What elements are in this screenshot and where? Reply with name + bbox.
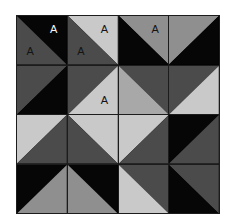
- quilt-cell-r1-c1: A: [68, 66, 118, 115]
- quilt-cell-r0-c0: AA: [17, 16, 67, 65]
- quilt-cell-r1-c3: [169, 66, 219, 115]
- quilt-cell-r2-c2: [119, 115, 169, 164]
- quilt-cell-r1-c0: [17, 66, 67, 115]
- quilt-cell-r2-c1: [68, 115, 118, 164]
- quilt-cell-r0-c3: [169, 16, 219, 65]
- quilt-cell-r2-c0: [17, 115, 67, 164]
- quilt-cell-r2-c3: [169, 115, 219, 164]
- quilt-cell-r1-c2: [119, 66, 169, 115]
- quilt-cell-r3-c1: [68, 165, 118, 214]
- quilt-cell-r3-c3: [169, 165, 219, 214]
- quilt-cell-r0-c2: A: [119, 16, 169, 65]
- quilt-canvas: AAAAAA: [0, 0, 232, 222]
- quilt-cell-r3-c0: [17, 165, 67, 214]
- triangle-quilt-grid: AAAAAA: [16, 15, 220, 214]
- quilt-cell-r3-c2: [119, 165, 169, 214]
- quilt-cell-r0-c1: AA: [68, 16, 118, 65]
